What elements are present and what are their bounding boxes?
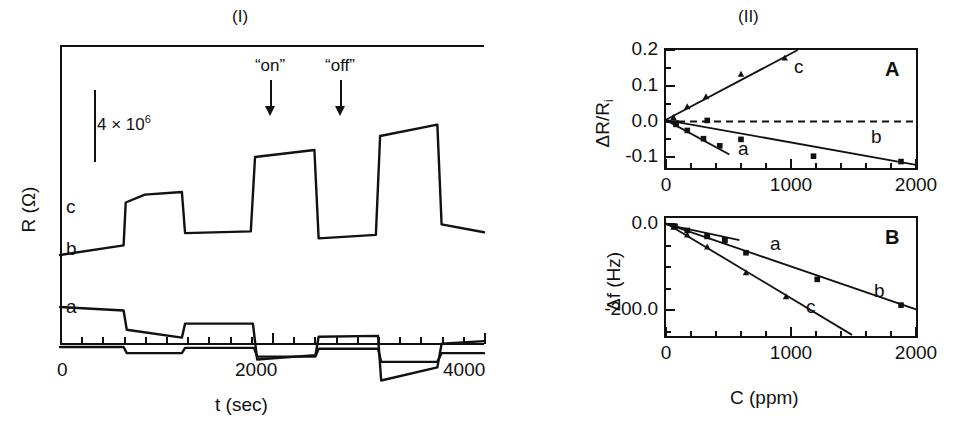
x-minor-tick <box>715 163 717 168</box>
panel-one-minor-tick <box>81 337 83 344</box>
panel-one-minor-tick <box>124 337 126 344</box>
x-major-tick <box>665 327 667 336</box>
panel-one-minor-tick <box>378 337 380 344</box>
x-minor-tick <box>740 163 742 168</box>
x-tick-label: 2000 <box>886 342 946 364</box>
panel-one: (I) R (Ω) t (sec) 0 2000 4000 4 × 106 “o… <box>0 0 540 432</box>
fit-line-c <box>666 50 798 120</box>
x-minor-tick <box>840 331 842 336</box>
data-point-a <box>684 128 690 134</box>
panel-one-xtick-4000: 4000 <box>443 360 485 379</box>
panel-one-x-axis-label: t (sec) <box>215 395 268 414</box>
data-point-b <box>814 277 820 283</box>
x-minor-tick <box>890 331 892 336</box>
x-major-tick <box>915 159 917 168</box>
panel-two-x-axis-label: C (ppm) <box>730 388 799 407</box>
x-major-tick <box>915 327 917 336</box>
panel-one-top-rule <box>60 45 484 345</box>
x-tick-label: 2000 <box>886 174 946 196</box>
y-minor-tick <box>666 138 671 140</box>
y-major-tick <box>666 85 675 87</box>
x-major-tick <box>790 159 792 168</box>
data-point-b <box>704 118 710 124</box>
panel-one-plot-area <box>60 45 484 345</box>
y-minor-tick <box>666 67 671 69</box>
subpanel-a-frame: 0.20.10.0-0.1010002000cba <box>664 48 918 170</box>
series-label-c: c <box>794 56 804 78</box>
x-minor-tick <box>815 331 817 336</box>
x-major-tick <box>790 327 792 336</box>
fit-line-c <box>666 223 852 335</box>
panel-one-major-tick <box>484 333 486 344</box>
x-minor-tick <box>815 163 817 168</box>
y-major-tick <box>666 223 675 225</box>
annotation-off-arrow-shaft <box>340 80 342 108</box>
y-minor-tick <box>666 103 671 105</box>
trace-label-a: a <box>66 296 77 318</box>
down-arrow-icon <box>265 106 275 116</box>
panel-one-minor-tick <box>399 337 401 344</box>
data-point-b <box>898 159 904 165</box>
y-tick-label: 0.0 <box>563 212 666 234</box>
data-point-a <box>722 237 728 243</box>
panel-one-xtick-0: 0 <box>57 360 68 379</box>
panel-one-minor-tick <box>166 337 168 344</box>
data-point-c <box>684 103 690 109</box>
panel-one-minor-tick <box>314 337 316 344</box>
panel-one-minor-tick <box>357 337 359 344</box>
y-minor-tick <box>666 288 671 290</box>
y-tick-label: 0.1 <box>563 74 666 96</box>
subpanel-b-y-axis-label: Δf (Hz) <box>604 252 623 311</box>
panel-one-minor-tick <box>102 337 104 344</box>
y-tick-label: 0.2 <box>563 38 666 60</box>
panel-one-minor-tick <box>442 337 444 344</box>
annotation-on-arrow-shaft <box>270 80 272 108</box>
panel-two-title: (II) <box>738 8 759 25</box>
data-point-c <box>703 93 709 99</box>
panel-one-minor-tick <box>145 337 147 344</box>
x-tick-label: 1000 <box>761 174 821 196</box>
data-point-b <box>743 250 749 256</box>
panel-one-major-tick <box>60 333 62 344</box>
panel-two: (II) 0.20.10.0-0.1010002000cba A ΔR/Ri 0… <box>540 0 959 432</box>
series-label-a: a <box>770 233 781 255</box>
subpanel-a-y-axis-label: ΔR/Ri <box>593 99 616 147</box>
x-tick-label: 0 <box>636 342 696 364</box>
data-point-a <box>701 136 707 142</box>
y-major-tick <box>666 121 675 123</box>
panel-one-y-axis-label: R (Ω) <box>19 187 38 233</box>
trace-label-c: c <box>66 196 76 218</box>
panel-one-y-axis <box>60 45 62 345</box>
y-tick-label: -0.1 <box>563 145 666 167</box>
subpanel-a-plot <box>666 50 916 168</box>
data-point-a <box>704 233 710 239</box>
subpanel-b-plot <box>666 218 916 336</box>
annotation-off-label: “off” <box>325 56 355 76</box>
x-minor-tick <box>865 331 867 336</box>
panel-one-minor-tick <box>187 337 189 344</box>
x-minor-tick <box>765 163 767 168</box>
data-point-a <box>684 228 690 234</box>
data-point-b <box>898 302 904 308</box>
scale-bar <box>94 90 96 162</box>
panel-one-major-tick <box>272 333 274 344</box>
panel-one-minor-tick <box>251 337 253 344</box>
y-major-tick <box>666 49 675 51</box>
scale-bar-exponent: 6 <box>145 113 151 125</box>
series-label-a: a <box>738 138 749 160</box>
y-major-tick <box>666 156 675 158</box>
series-label-b: b <box>871 126 882 148</box>
data-point-c <box>738 71 744 77</box>
down-arrow-icon <box>335 106 345 116</box>
scale-bar-mantissa: 4 × 10 <box>97 115 145 134</box>
series-label-b: b <box>874 280 885 302</box>
panel-one-minor-tick <box>293 337 295 344</box>
subpanel-b-frame: 0.0-200.0010002000abc <box>664 216 918 338</box>
subpanel-a-y-axis-label-main: ΔR/R <box>592 102 613 147</box>
x-minor-tick <box>865 163 867 168</box>
x-tick-label: 1000 <box>761 342 821 364</box>
subpanel-a-letter: A <box>885 58 899 81</box>
panel-one-x-axis <box>60 343 484 345</box>
x-minor-tick <box>740 331 742 336</box>
subpanel-a-y-axis-label-sub: i <box>602 99 616 102</box>
